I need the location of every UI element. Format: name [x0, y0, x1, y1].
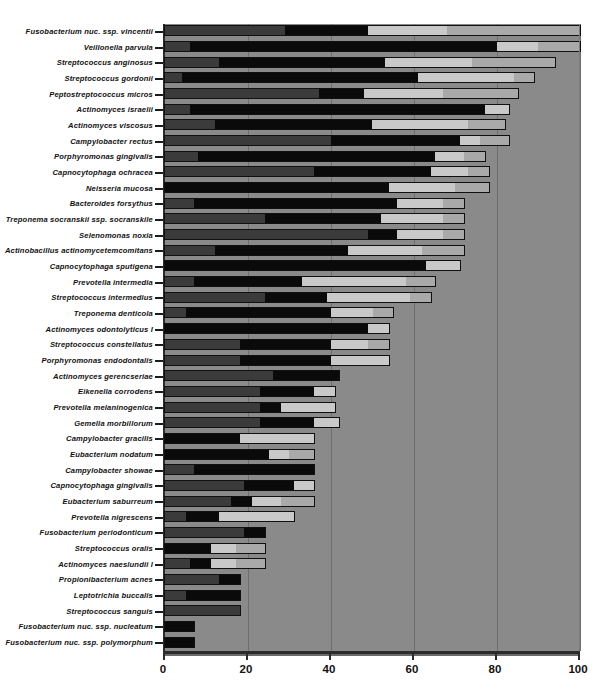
- y-axis-label: Fusobacterium nuc. ssp. polymorphum: [5, 638, 153, 647]
- bar-segment-3: [314, 418, 339, 427]
- stacked-bar: [165, 606, 240, 615]
- y-axis-label: Campylobacter showae: [65, 466, 153, 475]
- bar-segment-2: [215, 246, 348, 255]
- bar-segment-2: [244, 528, 265, 537]
- x-axis-tick-label: 100: [568, 663, 587, 675]
- bar-segment-2: [190, 559, 211, 568]
- bar-segment-3: [331, 356, 389, 365]
- y-axis-tick: [155, 109, 163, 111]
- stacked-bar: [165, 371, 339, 380]
- bar-row: [165, 338, 580, 354]
- y-axis-tick: [155, 250, 163, 252]
- y-axis-tick: [155, 470, 163, 472]
- y-axis-tick: [155, 407, 163, 409]
- bar-segment-2: [186, 591, 240, 600]
- bar-row: [165, 400, 580, 416]
- stacked-bar: [165, 308, 393, 317]
- bar-segment-2: [194, 199, 397, 208]
- bar-row: [165, 604, 580, 620]
- bar-segment-2: [273, 371, 339, 380]
- y-axis-tick: [155, 485, 163, 487]
- bar-segment-4: [443, 89, 518, 98]
- bar-segment-3: [497, 42, 539, 51]
- bar-segment-2: [219, 58, 385, 67]
- bar-row: [165, 557, 580, 573]
- x-axis-tick-label: 40: [323, 663, 336, 675]
- bar-segment-3: [368, 324, 389, 333]
- x-axis-tick-0: [163, 651, 165, 660]
- bar-segment-3: [327, 293, 410, 302]
- stacked-bar: [165, 481, 314, 490]
- bar-segment-2: [368, 230, 397, 239]
- y-axis-label: Prevotella intermedia: [73, 278, 153, 287]
- bar-row: [165, 118, 580, 134]
- bar-segment-2: [219, 575, 240, 584]
- y-axis-label: Streptococcus oralis: [75, 544, 153, 553]
- y-axis-tick: [155, 642, 163, 644]
- bar-segment-3: [302, 277, 406, 286]
- bar-segment-2: [319, 89, 365, 98]
- bar-row: [165, 259, 580, 275]
- bar-segment-2: [190, 42, 497, 51]
- bar-segment-2: [240, 340, 331, 349]
- bar-segment-1: [165, 105, 190, 114]
- bar-segment-3: [418, 73, 513, 82]
- bar-segment-1: [165, 465, 194, 474]
- stacked-bar: [165, 497, 314, 506]
- stacked-bar: [165, 230, 464, 239]
- y-axis-tick: [155, 266, 163, 268]
- bar-segment-2: [215, 120, 373, 129]
- bar-segment-4: [422, 246, 463, 255]
- y-axis-tick: [155, 376, 163, 378]
- bar-row: [165, 635, 580, 651]
- bar-segment-2: [165, 183, 389, 192]
- y-axis-tick: [155, 329, 163, 331]
- bar-segment-3: [240, 434, 315, 443]
- bar-segment-4: [447, 26, 580, 35]
- bar-row: [165, 385, 580, 401]
- bar-segment-4: [373, 308, 394, 317]
- stacked-bar: [165, 120, 505, 129]
- stacked-bar: [165, 356, 389, 365]
- stacked-bar: [165, 26, 580, 35]
- bar-segment-3: [385, 58, 472, 67]
- bar-segment-1: [165, 199, 194, 208]
- bar-segment-2: [260, 387, 314, 396]
- bar-segment-4: [406, 277, 435, 286]
- y-axis-label: Streptococcus constellatus: [50, 340, 153, 349]
- y-axis-tick: [155, 141, 163, 143]
- stacked-bar: [165, 199, 464, 208]
- bar-segment-3: [364, 89, 443, 98]
- y-axis-label: Porphyromonas endodontalis: [41, 356, 153, 365]
- bar-row: [165, 149, 580, 165]
- bar-rows: [165, 24, 580, 651]
- bar-segment-2: [314, 167, 430, 176]
- bar-segment-2: [165, 544, 211, 553]
- bar-row: [165, 510, 580, 526]
- bar-segment-1: [165, 277, 194, 286]
- y-axis-label: Actinomyces odontolyticus I: [46, 325, 153, 334]
- y-axis-tick: [155, 438, 163, 440]
- bar-row: [165, 71, 580, 87]
- y-axis-tick: [155, 611, 163, 613]
- y-axis-tick: [155, 564, 163, 566]
- bar-row: [165, 526, 580, 542]
- bar-segment-1: [165, 591, 186, 600]
- bar-segment-3: [211, 559, 236, 568]
- bar-row: [165, 541, 580, 557]
- y-axis-tick: [155, 423, 163, 425]
- bar-segment-3: [397, 199, 443, 208]
- stacked-bar: [165, 183, 489, 192]
- bar-row: [165, 243, 580, 259]
- bar-segment-2: [165, 434, 240, 443]
- stacked-bar: [165, 559, 265, 568]
- bar-segment-2: [182, 73, 419, 82]
- bar-segment-1: [165, 371, 273, 380]
- bar-segment-1: [165, 167, 314, 176]
- bar-segment-3: [252, 497, 281, 506]
- y-axis-tick: [155, 188, 163, 190]
- y-axis-label: Eikenella corrodens: [78, 387, 153, 396]
- stacked-bar: [165, 277, 435, 286]
- bar-segment-3: [426, 261, 459, 270]
- x-axis-tick-label: 0: [160, 663, 166, 675]
